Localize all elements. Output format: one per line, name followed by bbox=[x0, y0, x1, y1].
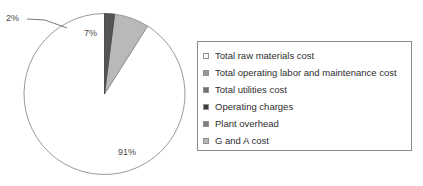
pie-value-label-91: 91% bbox=[118, 147, 136, 157]
legend-swatch-icon bbox=[203, 87, 209, 93]
pie-value-label-7: 7% bbox=[84, 28, 97, 38]
legend-item-label: Total utilities cost bbox=[215, 84, 287, 95]
legend-list: Total raw materials cost Total operating… bbox=[198, 42, 411, 150]
pie-value-label-2: 2% bbox=[6, 13, 19, 23]
legend-item-plant-overhead: Plant overhead bbox=[203, 115, 411, 132]
legend-swatch-icon bbox=[203, 70, 209, 76]
legend-item-label: Total raw materials cost bbox=[215, 50, 314, 61]
pie-chart-figure: 91% 7% 2% Total raw materials cost Total… bbox=[0, 0, 423, 186]
legend-item-label: G and A cost bbox=[215, 135, 269, 146]
legend-item-label: Plant overhead bbox=[215, 118, 279, 129]
legend-item-total-utilities-cost: Total utilities cost bbox=[203, 81, 411, 98]
legend-item-g-and-a-cost: G and A cost bbox=[203, 132, 411, 149]
legend-item-label: Operating charges bbox=[215, 101, 293, 112]
legend-swatch-icon bbox=[203, 121, 209, 127]
legend-swatch-icon bbox=[203, 138, 209, 144]
legend-item-operating-charges: Operating charges bbox=[203, 98, 411, 115]
legend: Total raw materials cost Total operating… bbox=[197, 41, 412, 151]
legend-item-total-operating-labor-and-maintenance-cost: Total operating labor and maintenance co… bbox=[203, 64, 411, 81]
legend-item-total-raw-materials-cost: Total raw materials cost bbox=[203, 47, 411, 64]
legend-swatch-icon bbox=[203, 104, 209, 110]
legend-swatch-icon bbox=[203, 53, 209, 59]
legend-item-label: Total operating labor and maintenance co… bbox=[215, 67, 397, 78]
